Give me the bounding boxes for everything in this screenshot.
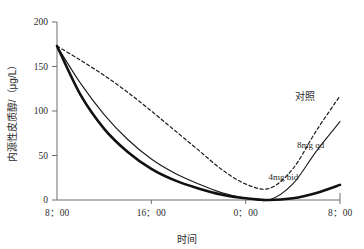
x-tick-label: 16：00 [137, 208, 166, 218]
y-tick-label: 200 [34, 17, 49, 27]
y-axis-title: 内源性皮质醇/（μg/L） [6, 60, 18, 162]
series-annotation-8mg-qd: 8mg qd [297, 140, 325, 150]
y-tick-label: 100 [34, 106, 49, 116]
y-tick-label: 150 [34, 62, 49, 72]
chart-container: 050100150200 8：0016：000：008：00 对照8mg qd4… [0, 0, 364, 249]
y-axis-ticks: 050100150200 [34, 17, 57, 205]
cortisol-line-chart: 050100150200 8：0016：000：008：00 对照8mg qd4… [0, 0, 364, 249]
x-axis-title: 时间 [177, 233, 197, 245]
x-axis-ticks: 8：0016：000：008：00 [45, 200, 353, 218]
y-tick-label: 0 [43, 195, 48, 205]
series-path-对照 [57, 46, 340, 189]
series-annotation-对照: 对照 [295, 90, 315, 102]
series-annotations: 对照8mg qd4mg bid [269, 90, 325, 182]
y-tick-label: 50 [39, 151, 49, 161]
x-tick-label: 0：00 [234, 208, 259, 218]
x-tick-label: 8：00 [45, 208, 70, 218]
x-tick-label: 8：00 [328, 208, 353, 218]
series-annotation-4mg-bid: 4mg bid [269, 172, 299, 182]
